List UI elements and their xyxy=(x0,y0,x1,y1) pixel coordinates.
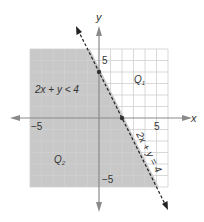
boundary-up-arrow-icon xyxy=(76,26,82,35)
x-axis-label: x xyxy=(190,112,197,124)
boundary-down-arrow-icon xyxy=(162,201,168,210)
tick-y-5: 5 xyxy=(102,55,108,66)
point-y-intercept xyxy=(97,70,101,74)
tick-y-neg5: −5 xyxy=(102,174,114,185)
y-axis-up-arrow-icon xyxy=(96,26,102,36)
y-axis-label: y xyxy=(95,11,103,23)
x-axis-left-arrow-icon xyxy=(10,115,20,121)
tick-x-5: 5 xyxy=(154,121,160,132)
y-axis-down-arrow-icon xyxy=(96,202,102,212)
point-x-intercept xyxy=(120,116,124,120)
tick-x-neg5: −5 xyxy=(31,121,43,132)
coordinate-plane: y x 5 −5 −5 5 2x + y < 4 Q1 Q2 2x + y = … xyxy=(0,0,204,222)
inequality-label: 2x + y < 4 xyxy=(34,84,79,95)
